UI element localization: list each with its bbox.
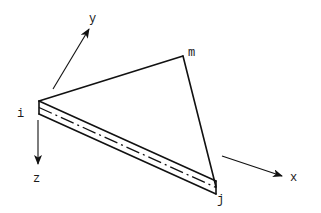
- plate-midplane-centerline: [39, 108, 216, 188]
- node-label-m: m: [188, 46, 195, 60]
- triangular-plate-diagram: i m j y z x: [0, 0, 321, 213]
- x-axis-arrow: [222, 156, 282, 176]
- axis-label-y: y: [89, 12, 96, 26]
- y-axis-arrow: [53, 29, 89, 89]
- axis-label-x: x: [290, 171, 297, 185]
- axis-label-z: z: [33, 172, 40, 186]
- edge-i-m: [39, 56, 183, 101]
- node-label-i: i: [17, 107, 24, 121]
- edge-m-j: [183, 56, 216, 187]
- edge-i-j-top: [39, 101, 216, 181]
- edge-i-j-bottom: [39, 114, 216, 194]
- node-label-j: j: [217, 193, 224, 207]
